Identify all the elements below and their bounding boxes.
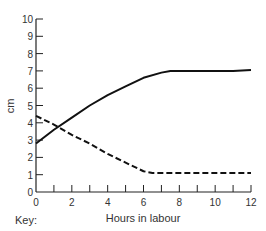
y-tick-label: 10 <box>22 14 34 25</box>
x-tick-label: 8 <box>177 197 183 208</box>
y-tick-label: 6 <box>27 83 33 94</box>
x-tick-label: 0 <box>33 197 39 208</box>
y-tick-label: 4 <box>27 118 33 129</box>
dashed-series-line <box>36 116 251 173</box>
y-tick-label: 5 <box>27 101 33 112</box>
y-tick-label: 8 <box>27 49 33 60</box>
y-axis-title: cm <box>4 99 16 114</box>
x-tick-label: 10 <box>210 197 222 208</box>
x-axis-title: Hours in labour <box>106 212 181 224</box>
x-tick-label: 12 <box>245 197 257 208</box>
y-tick-label: 7 <box>27 66 33 77</box>
y-tick-label: 3 <box>27 135 33 146</box>
x-tick-label: 2 <box>69 197 75 208</box>
y-tick-label: 1 <box>27 170 33 181</box>
series-lines <box>36 70 251 173</box>
y-tick-label: 2 <box>27 152 33 163</box>
legend-key-label: Key: <box>15 214 37 226</box>
x-axis-ticks: 024681012 <box>33 185 257 208</box>
y-axis-ticks: 012345678910 <box>22 14 43 198</box>
y-tick-label: 9 <box>27 31 33 42</box>
x-tick-label: 6 <box>141 197 147 208</box>
line-chart: 012345678910 024681012 cm Hours in labou… <box>0 0 266 231</box>
x-tick-label: 4 <box>105 197 111 208</box>
